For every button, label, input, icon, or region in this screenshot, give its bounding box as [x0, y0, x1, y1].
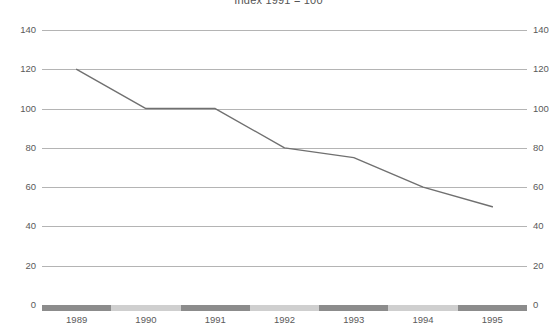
y-axis-right-tick-label: 0: [533, 300, 538, 310]
series-line-index: [42, 30, 527, 305]
y-axis-left-tick-label: 140: [20, 25, 36, 35]
y-axis-right-tick-label: 140: [533, 25, 549, 35]
y-axis-right-tick-label: 100: [533, 104, 549, 114]
x-axis-band-segment: [181, 305, 250, 311]
y-axis-left-tick-label: 100: [20, 104, 36, 114]
y-axis-left: 020406080100120140: [0, 30, 36, 305]
y-axis-right-tick-label: 60: [533, 182, 544, 192]
x-axis-tick-label: 1990: [111, 315, 180, 325]
x-axis-tick-label: 1995: [458, 315, 527, 325]
x-axis-band-segment: [388, 305, 457, 311]
x-axis-band-segment: [250, 305, 319, 311]
x-axis-tick-label: 1991: [181, 315, 250, 325]
x-axis-band-segment: [319, 305, 388, 311]
x-axis: 1989199019911992199319941995: [42, 305, 527, 330]
y-axis-left-tick-label: 120: [20, 64, 36, 74]
x-axis-tick-label: 1992: [250, 315, 319, 325]
plot-area: [42, 30, 527, 305]
x-axis-tick-label: 1993: [319, 315, 388, 325]
y-axis-right-tick-label: 20: [533, 261, 544, 271]
x-axis-band-segment: [111, 305, 180, 311]
x-axis-tick-label: 1994: [388, 315, 457, 325]
chart-title: Index 1991 = 100: [0, 0, 557, 6]
x-axis-tick-label: 1989: [42, 315, 111, 325]
y-axis-left-tick-label: 0: [31, 300, 36, 310]
y-axis-right-tick-label: 40: [533, 221, 544, 231]
chart-container: Index 1991 = 100 020406080100120140 0204…: [0, 0, 557, 330]
y-axis-right-tick-label: 80: [533, 143, 544, 153]
x-axis-band-segment: [458, 305, 527, 311]
y-axis-left-tick-label: 60: [25, 182, 36, 192]
y-axis-left-tick-label: 40: [25, 221, 36, 231]
y-axis-right: 020406080100120140: [533, 30, 557, 305]
y-axis-right-tick-label: 120: [533, 64, 549, 74]
y-axis-left-tick-label: 20: [25, 261, 36, 271]
x-axis-band-segment: [42, 305, 111, 311]
x-axis-band-bar: [42, 305, 527, 311]
y-axis-left-tick-label: 80: [25, 143, 36, 153]
